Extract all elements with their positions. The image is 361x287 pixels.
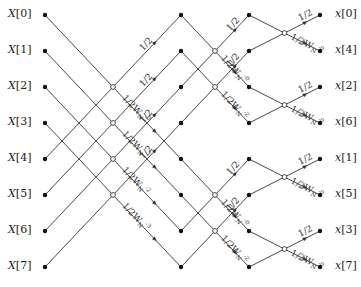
node — [179, 13, 183, 17]
input-label: X[5] — [8, 187, 31, 200]
output-label: x[0] — [335, 7, 357, 20]
node — [43, 13, 47, 17]
input-label: X[3] — [8, 115, 31, 128]
output-label: x[4] — [335, 43, 357, 56]
node — [43, 121, 47, 125]
node — [247, 265, 251, 269]
input-label: X[4] — [8, 151, 31, 164]
adder-node — [213, 193, 218, 198]
gain-label: 1/2 — [297, 7, 314, 22]
node — [179, 265, 183, 269]
adder-node — [282, 247, 287, 252]
gain-label: 1/2WN-2 — [218, 232, 252, 266]
gain-label: 1/2WN-0 — [289, 246, 326, 273]
node — [247, 121, 251, 125]
node — [179, 157, 183, 161]
gain-label: 1/2 — [297, 223, 314, 238]
output-label: x[5] — [335, 187, 357, 200]
output-label: x[1] — [335, 151, 357, 164]
adder-node — [213, 49, 218, 54]
adder-node — [282, 175, 287, 180]
flow-graph: 1/21/2WN-01/21/2WN-11/21/2WN-21/21/2WN-3… — [0, 0, 361, 287]
node — [43, 265, 47, 269]
gain-label: 1/2 — [224, 15, 241, 32]
output-label: x[6] — [335, 115, 357, 128]
adder-node — [111, 121, 116, 126]
input-label: X[6] — [8, 223, 31, 236]
gain-label: 1/2WN-0 — [289, 30, 326, 57]
node — [247, 193, 251, 197]
node — [179, 49, 183, 53]
adder-node — [282, 31, 287, 36]
fft-butterfly-diagram: 1/21/2WN-01/21/2WN-11/21/2WN-21/21/2WN-3… — [0, 0, 361, 287]
output-label: x[7] — [335, 259, 357, 272]
node — [247, 85, 251, 89]
node — [179, 121, 183, 125]
node — [318, 265, 322, 269]
node — [43, 85, 47, 89]
adder-node — [111, 157, 116, 162]
adder-node — [111, 193, 116, 198]
node — [43, 193, 47, 197]
gain-label: 1/2WN-3 — [120, 199, 154, 233]
node — [43, 157, 47, 161]
gain-label: 1/2WN-2 — [120, 163, 154, 197]
node — [247, 49, 251, 53]
output-label: x[3] — [335, 223, 357, 236]
input-label: X[0] — [8, 7, 31, 20]
adder-node — [282, 103, 287, 108]
node — [43, 49, 47, 53]
input-label: X[1] — [8, 43, 31, 56]
adder-node — [213, 85, 218, 90]
node — [318, 229, 322, 233]
node — [247, 13, 251, 17]
node — [318, 157, 322, 161]
node — [179, 229, 183, 233]
output-label: x[2] — [335, 79, 357, 92]
node — [179, 85, 183, 89]
node — [318, 193, 322, 197]
node — [318, 121, 322, 125]
input-label: X[2] — [8, 79, 31, 92]
gain-label: 1/2 — [297, 79, 314, 94]
gain-label: 1/2WN-0 — [289, 174, 326, 201]
node — [247, 229, 251, 233]
node — [43, 229, 47, 233]
gain-label: 1/2 — [297, 151, 314, 166]
gain-label: 1/2 — [137, 35, 154, 52]
node — [179, 193, 183, 197]
adder-node — [111, 85, 116, 90]
node — [318, 49, 322, 53]
node — [318, 13, 322, 17]
gain-label: 1/2 — [137, 71, 154, 88]
gain-label: 1/2WN-2 — [218, 88, 252, 122]
gain-label: 1/2 — [224, 159, 241, 176]
node — [318, 85, 322, 89]
input-label: X[7] — [8, 259, 31, 272]
gain-label: 1/2WN-0 — [289, 102, 326, 129]
node — [247, 157, 251, 161]
adder-node — [213, 229, 218, 234]
